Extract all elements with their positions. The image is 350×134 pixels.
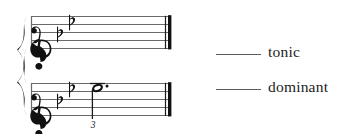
worksheet-page: 3 tonic dominant [0, 0, 350, 134]
flat-icon [69, 82, 75, 98]
answer-label-dominant: dominant [268, 79, 328, 95]
flat-icon [69, 15, 75, 31]
music-notation-figure: 3 [0, 0, 200, 134]
fingering-number: 3 [90, 120, 96, 130]
answer-label-tonic: tonic [268, 44, 300, 60]
grand-staff-svg: 3 [0, 0, 200, 134]
staff-top [31, 17, 171, 49]
key-signature-top [57, 15, 75, 43]
key-signature-bottom [57, 82, 75, 110]
answer-blank-tonic[interactable] [216, 54, 261, 55]
augmentation-dot [106, 85, 109, 88]
answer-blank-dominant[interactable] [216, 89, 261, 90]
answer-blanks-list: tonic dominant [216, 0, 350, 134]
answer-row-dominant[interactable]: dominant [216, 79, 328, 95]
answer-row-tonic[interactable]: tonic [216, 44, 300, 60]
brace-icon [17, 16, 27, 116]
note-dotted-half [90, 82, 109, 119]
